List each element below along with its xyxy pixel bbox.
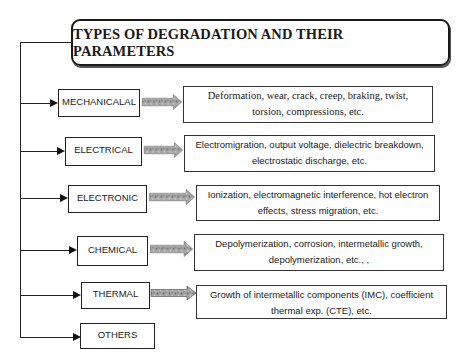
- textured-arrow-icon: [147, 189, 197, 205]
- category-box-electronic: ELECTRONIC: [68, 185, 147, 213]
- description-box-chemical: Depolymerization, corrosion, intermetall…: [194, 234, 444, 271]
- arrowhead-icon: [69, 246, 77, 254]
- textured-arrow-icon: [140, 94, 184, 110]
- category-label: ELECTRONIC: [77, 192, 138, 203]
- category-label: ELECTRICAL: [74, 144, 133, 155]
- branch-line-others: [20, 337, 74, 338]
- description-box-electrical: Electromigration, output voltage, dielec…: [184, 135, 435, 172]
- description-box-mechanical: Deformation, wear, crack, creep, braking…: [183, 86, 433, 123]
- diagram-title: TYPES OF DEGRADATION AND THEIR PARAMETER…: [71, 19, 450, 66]
- branch-line-electrical: [20, 151, 58, 152]
- category-box-mechanical: MECHANICALAL: [58, 89, 140, 117]
- description-line: thermal exp. (CTE), etc.: [210, 303, 433, 319]
- textured-arrow-icon: [142, 142, 185, 158]
- description-line: Deformation, wear, crack, creep, braking…: [208, 88, 408, 104]
- category-label: THERMAL: [93, 288, 138, 299]
- description-line: depolymerization, etc., ,: [215, 252, 423, 268]
- branch-line-mechanical: [20, 103, 52, 104]
- arrowhead-icon: [60, 194, 68, 202]
- description-line: Electromigration, output voltage, dielec…: [195, 137, 423, 153]
- category-box-chemical: CHEMICAL: [77, 236, 148, 266]
- category-label: MECHANICALAL: [62, 96, 136, 107]
- description-line: Growth of intermetallic components (IMC)…: [210, 287, 433, 303]
- description-line: effects, stress migration, etc.: [208, 203, 429, 219]
- category-box-electrical: ELECTRICAL: [65, 137, 142, 166]
- arrowhead-icon: [73, 291, 81, 299]
- category-box-thermal: THERMAL: [81, 282, 150, 309]
- description-line: Depolymerization, corrosion, intermetall…: [215, 236, 423, 252]
- description-box-electronic: Ionization, electromagnetic interference…: [196, 185, 440, 221]
- category-label: OTHERS: [98, 329, 138, 340]
- description-box-thermal: Growth of intermetallic components (IMC)…: [196, 285, 447, 319]
- branch-line-electronic: [20, 198, 61, 199]
- description-line: Ionization, electromagnetic interference…: [208, 187, 429, 203]
- textured-arrow-icon: [148, 241, 195, 257]
- description-line: electrostatic discharge, etc.: [195, 153, 423, 169]
- category-box-others: OTHERS: [80, 323, 155, 349]
- branch-line-thermal: [20, 295, 74, 296]
- arrowhead-icon: [57, 147, 65, 155]
- description-line: torsion, compressions, etc.: [208, 104, 408, 120]
- category-label: CHEMICAL: [88, 244, 137, 255]
- arrowhead-icon: [50, 99, 58, 107]
- title-connector-line: [20, 42, 72, 43]
- textured-arrow-icon: [150, 285, 197, 301]
- branch-line-chemical: [20, 250, 70, 251]
- trunk-line: [20, 42, 21, 338]
